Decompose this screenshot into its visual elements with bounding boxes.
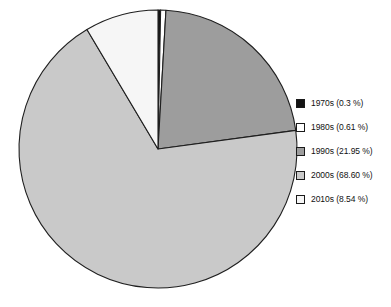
pie-slice-1990s[interactable] [158, 10, 296, 149]
legend-item-2000s[interactable]: 2000s (68.60 %) [296, 163, 391, 187]
chart-legend: 1970s (0.3 %) 1980s (0.61 %) 1990s (21.9… [296, 91, 391, 211]
legend-swatch-2010s [296, 195, 305, 204]
pie-slice-group [19, 10, 297, 288]
legend-swatch-1980s [296, 123, 305, 132]
legend-label-1980s: 1980s (0.61 %) [311, 123, 368, 132]
legend-swatch-2000s [296, 171, 305, 180]
legend-item-1990s[interactable]: 1990s (21.95 %) [296, 139, 391, 163]
legend-label-1970s: 1970s (0.3 %) [311, 99, 363, 108]
pie-plot-area [0, 0, 300, 307]
legend-label-2000s: 2000s (68.60 %) [311, 171, 373, 180]
legend-swatch-1990s [296, 147, 305, 156]
legend-label-2010s: 2010s (8.54 %) [311, 195, 368, 204]
legend-label-1990s: 1990s (21.95 %) [311, 147, 373, 156]
legend-item-1980s[interactable]: 1980s (0.61 %) [296, 115, 391, 139]
legend-swatch-1970s [296, 99, 305, 108]
pie-svg [0, 0, 300, 307]
legend-item-2010s[interactable]: 2010s (8.54 %) [296, 187, 391, 211]
legend-item-1970s[interactable]: 1970s (0.3 %) [296, 91, 391, 115]
pie-chart-figure: 1970s (0.3 %) 1980s (0.61 %) 1990s (21.9… [0, 0, 391, 307]
